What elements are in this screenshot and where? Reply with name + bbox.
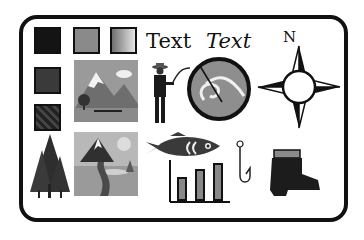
fishing-hook-icon: [230, 140, 254, 186]
pine-tree-icon: [28, 134, 72, 198]
bar-chart-icon: [168, 160, 230, 204]
dark-gray-swatch: [34, 67, 61, 94]
gray-swatch: [73, 27, 100, 54]
fish-icon: [146, 132, 222, 162]
pattern-swatch: [34, 104, 61, 131]
text-label-regular: Text: [146, 31, 191, 52]
fisherman-icon: [150, 62, 180, 124]
text-label-italic: Text: [206, 31, 251, 52]
fishing-lure-circle-icon: [186, 56, 252, 122]
mountain-path-image: [74, 132, 138, 196]
black-swatch: [34, 27, 61, 54]
boot-icon: [268, 150, 322, 196]
compass-rose-icon: [258, 46, 340, 128]
compass-north-label: N: [283, 30, 296, 45]
gradient-swatch: [110, 27, 137, 54]
mountain-lake-image: [74, 60, 138, 122]
